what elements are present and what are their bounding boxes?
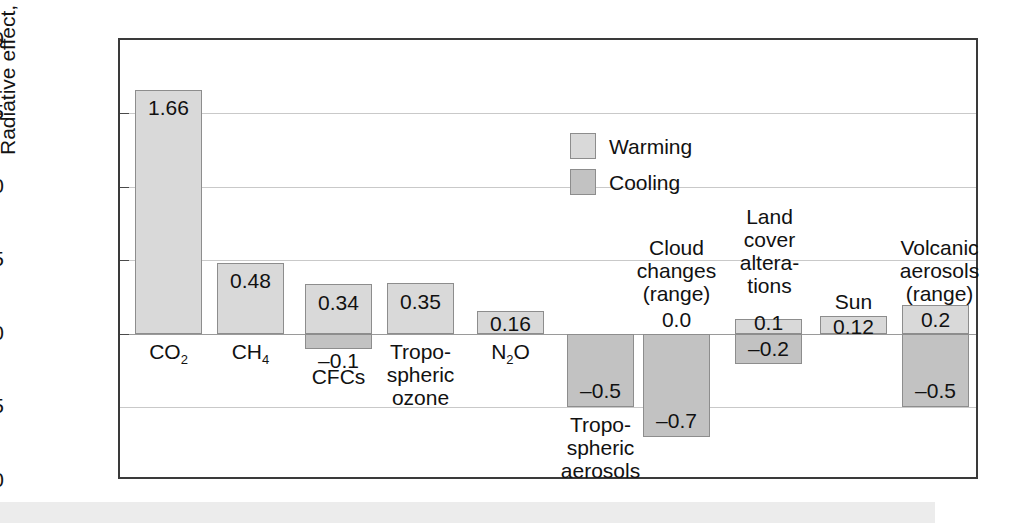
bar-value-land-cover-alterations-warming: 0.1 bbox=[735, 312, 802, 333]
bar-value-volcanic-aerosols-warming: 0.2 bbox=[902, 309, 969, 330]
ytick-label-neg-1-0: –1.0 bbox=[0, 469, 4, 490]
ytick-label-0: 0 bbox=[0, 322, 4, 343]
ytick-mark-zero bbox=[120, 334, 129, 335]
y-axis-title-text: Radiative effect, W/m bbox=[0, 0, 19, 155]
cat-label-tropospheric-aerosols-line1: Tropo- bbox=[555, 413, 646, 436]
legend-item-cooling[interactable]: Cooling bbox=[570, 167, 692, 197]
ytick-label-0-5: 0.5 bbox=[0, 248, 4, 269]
cat-label-land-cover-alterations-line1: Land bbox=[722, 205, 817, 228]
bar-value-ch4-warming: 0.48 bbox=[217, 270, 284, 291]
page-bottom-strip bbox=[0, 502, 1017, 523]
ytick-label-1-5: 1.5 bbox=[0, 101, 4, 122]
bar-value-n2o-warming: 0.16 bbox=[477, 313, 544, 334]
cat-label-n2o-subscript: 2 bbox=[506, 352, 513, 367]
cat-label-land-cover-alterations-line4: tions bbox=[722, 274, 817, 297]
cat-label-cloud-changes-line3: (range) bbox=[629, 282, 724, 305]
cat-label-cfcs: CFCs bbox=[295, 365, 382, 388]
ytick-mark-0-5 bbox=[120, 260, 129, 261]
bar-value-cfcs-warming: 0.34 bbox=[305, 292, 372, 313]
cat-label-tropospheric-aerosols-line3: aerosols bbox=[555, 459, 646, 482]
cat-label-tropospheric-ozone: Tropo- spheric ozone bbox=[375, 340, 466, 409]
legend-swatch-cooling-icon bbox=[570, 169, 596, 195]
bar-cfcs-cooling[interactable] bbox=[305, 334, 372, 349]
cat-label-tropospheric-ozone-line2: spheric bbox=[375, 363, 466, 386]
ytick-mark-1-0 bbox=[120, 187, 129, 188]
cat-label-land-cover-alterations: Land cover altera- tions bbox=[722, 205, 817, 297]
cat-label-n2o-text2: O bbox=[514, 340, 530, 363]
ytick-label-neg-0-5: –0.5 bbox=[0, 395, 4, 416]
cat-label-volcanic-aerosols-line2: aerosols bbox=[892, 259, 987, 282]
plot-area: 1.66 0.48 0.34 –0.1 0.35 0.16 –0.5 0.0 –… bbox=[118, 38, 978, 479]
cat-label-cloud-changes-line1: Cloud bbox=[629, 236, 724, 259]
bar-value-volcanic-aerosols-cooling: –0.5 bbox=[902, 380, 969, 401]
legend-label-warming: Warming bbox=[609, 136, 692, 157]
cat-label-land-cover-alterations-line3: altera- bbox=[722, 251, 817, 274]
cat-label-n2o-text: N bbox=[491, 340, 506, 363]
cat-label-land-cover-alterations-line2: cover bbox=[722, 228, 817, 251]
cat-label-ch4: CH4 bbox=[207, 340, 294, 371]
legend-label-cooling: Cooling bbox=[609, 172, 680, 193]
cat-label-cloud-changes: Cloud changes (range) bbox=[629, 236, 724, 305]
cat-label-n2o: N2O bbox=[467, 340, 554, 371]
cat-label-volcanic-aerosols-line1: Volcanic bbox=[892, 236, 987, 259]
cat-label-tropospheric-aerosols: Tropo- spheric aerosols bbox=[555, 413, 646, 482]
bar-co2-warming[interactable] bbox=[135, 90, 202, 334]
cat-label-co2-text: CO bbox=[149, 340, 181, 363]
gridline-0-5 bbox=[120, 260, 976, 261]
y-axis-title: Radiative effect, W/m2 bbox=[0, 0, 20, 155]
legend-item-warming[interactable]: Warming bbox=[570, 131, 692, 161]
cat-label-ch4-subscript: 4 bbox=[262, 352, 269, 367]
cat-label-co2-subscript: 2 bbox=[181, 352, 188, 367]
bar-value-land-cover-alterations-cooling: –0.2 bbox=[735, 338, 802, 359]
bar-value-cloud-changes-warming: 0.0 bbox=[643, 309, 710, 330]
ytick-mark-1-5 bbox=[120, 113, 129, 114]
cat-label-volcanic-aerosols: Volcanic aerosols (range) bbox=[892, 236, 987, 305]
gridline-neg-0-5 bbox=[120, 407, 976, 408]
bar-value-tropospheric-aerosols-cooling: –0.5 bbox=[567, 380, 634, 401]
bar-value-tropospheric-ozone-warming: 0.35 bbox=[387, 291, 454, 312]
cat-label-ch4-text: CH bbox=[232, 340, 262, 363]
radiative-effect-chart: Radiative effect, W/m2 2.0 1.5 1.0 0.5 0… bbox=[0, 0, 1017, 523]
legend-swatch-warming-icon bbox=[570, 133, 596, 159]
cat-label-tropospheric-aerosols-line2: spheric bbox=[555, 436, 646, 459]
gridline-1-0 bbox=[120, 187, 976, 188]
legend: Warming Cooling bbox=[570, 131, 692, 203]
cat-label-co2: CO2 bbox=[125, 340, 212, 371]
cat-label-sun: Sun bbox=[810, 290, 897, 313]
ytick-label-2-0: 2.0 bbox=[0, 28, 4, 49]
cat-label-volcanic-aerosols-line3: (range) bbox=[892, 282, 987, 305]
bar-value-co2-warming: 1.66 bbox=[135, 97, 202, 118]
cat-label-tropospheric-ozone-line1: Tropo- bbox=[375, 340, 466, 363]
gridline-1-5 bbox=[120, 113, 976, 114]
page-bottom-strip-right bbox=[935, 502, 1017, 523]
bar-value-sun-warming: 0.12 bbox=[820, 316, 887, 337]
cat-label-cloud-changes-line2: changes bbox=[629, 259, 724, 282]
cat-label-tropospheric-ozone-line3: ozone bbox=[375, 386, 466, 409]
bar-value-cloud-changes-cooling: –0.7 bbox=[643, 410, 710, 431]
ytick-label-1-0: 1.0 bbox=[0, 175, 4, 196]
